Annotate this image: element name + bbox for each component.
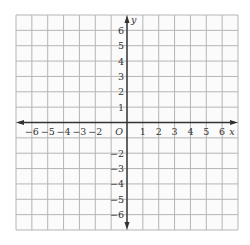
x-tick-label: 4: [187, 126, 193, 137]
x-tick-label: 1: [140, 126, 146, 137]
y-tick-label: 3: [118, 71, 124, 82]
y-tick-label: −4: [110, 178, 124, 189]
x-tick-label: 3: [172, 126, 178, 137]
x-tick-label: 6: [219, 126, 225, 137]
x-tick-label: −3: [72, 126, 86, 137]
y-tick-label: −5: [110, 194, 124, 205]
x-tick-label: 2: [156, 126, 162, 137]
y-tick-label: 4: [118, 56, 124, 67]
y-tick-label: 6: [118, 25, 124, 36]
x-axis-label: x: [229, 126, 235, 137]
x-tick-label: −2: [88, 126, 102, 137]
x-tick-label: −4: [57, 126, 71, 137]
coordinate-grid: −6−5−4−3−2123456654321−2−3−4−5−6Oxy: [0, 0, 250, 245]
y-tick-label: 5: [118, 40, 124, 51]
y-tick-label: 1: [118, 102, 124, 113]
y-tick-label: 2: [118, 86, 124, 97]
x-tick-label: 5: [203, 126, 209, 137]
y-axis-label: y: [130, 14, 137, 25]
y-tick-label: −6: [110, 209, 124, 220]
y-tick-label: −3: [110, 163, 124, 174]
x-tick-label: −5: [41, 126, 55, 137]
origin-label: O: [115, 126, 123, 137]
x-tick-label: −6: [25, 126, 39, 137]
y-tick-label: −2: [110, 148, 124, 159]
